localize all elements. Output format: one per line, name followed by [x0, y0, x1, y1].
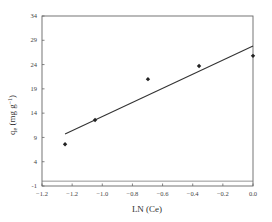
- y-tick-label: 19: [31, 85, 38, 92]
- y-axis-title: qe (mg g−1): [7, 95, 18, 135]
- x-axis-ticks: −1.2−1.2−1.0−0.8−0.6−0.4−0.20.0: [36, 184, 257, 198]
- plot-frame: [42, 16, 253, 186]
- x-tick-label: −0.2: [217, 190, 229, 197]
- x-tick-label: 0.0: [249, 190, 257, 197]
- x-tick-label: −1.2: [36, 190, 48, 197]
- data-point-marker: [93, 118, 97, 122]
- data-point-marker: [63, 142, 67, 146]
- x-tick-label: −0.4: [187, 190, 200, 197]
- data-point-marker: [251, 54, 255, 58]
- fit-line: [65, 46, 253, 134]
- x-tick-label: −1.2: [66, 190, 78, 197]
- x-tick-label: −0.6: [157, 190, 170, 197]
- x-axis-title: LN (Ce): [132, 204, 162, 214]
- data-point-marker: [197, 64, 201, 68]
- x-tick-label: −1.0: [96, 190, 108, 197]
- chart: -1491419242934 −1.2−1.2−1.0−0.8−0.6−0.4−…: [0, 0, 272, 222]
- y-tick-label: -1: [32, 182, 37, 189]
- y-tick-label: 9: [34, 134, 37, 141]
- y-tick-label: 4: [34, 158, 38, 165]
- data-points: [63, 54, 255, 147]
- y-tick-label: 29: [31, 36, 38, 43]
- data-point-marker: [146, 77, 150, 81]
- y-tick-label: 14: [31, 109, 38, 116]
- y-tick-label: 24: [31, 61, 38, 68]
- y-tick-label: 34: [31, 12, 38, 19]
- x-tick-label: −0.8: [127, 190, 139, 197]
